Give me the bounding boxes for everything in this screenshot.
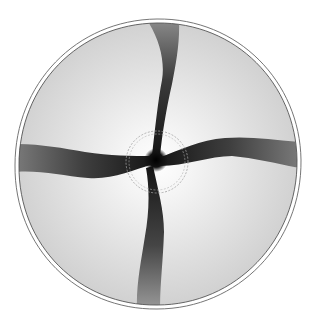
central-core (144, 148, 168, 172)
vortex-figure (0, 0, 310, 327)
vortex-figure-canvas (0, 0, 310, 327)
